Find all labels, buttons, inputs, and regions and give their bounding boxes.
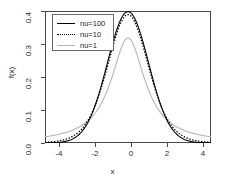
legend-item: nu=10 — [56, 29, 110, 40]
y-tick-label: 0.0 — [25, 144, 33, 155]
y-axis-title: f(x) — [7, 67, 16, 79]
y-tick-mark — [41, 77, 45, 78]
legend: nu=100 nu=10 nu=1 — [52, 14, 114, 51]
x-axis-title: x — [0, 167, 225, 176]
x-tick-mark — [167, 143, 168, 147]
legend-item: nu=1 — [56, 40, 110, 51]
y-tick-mark — [41, 44, 45, 45]
legend-line-solid-icon — [56, 19, 76, 28]
y-tick-mark — [41, 143, 45, 144]
y-tick-label: 0.1 — [25, 111, 33, 122]
y-tick-mark — [41, 11, 45, 12]
x-tick-mark — [59, 143, 60, 147]
x-tick-label: 2 — [152, 150, 182, 158]
x-tick-label: -2 — [80, 150, 110, 158]
x-tick-mark — [95, 143, 96, 147]
x-tick-mark — [131, 143, 132, 147]
x-tick-mark — [203, 143, 204, 147]
curve-nu-1 — [45, 38, 211, 137]
y-tick-label: 0.2 — [25, 78, 33, 89]
chart-root: 0.0 0.1 0.2 0.3 0.4 -4 -2 0 2 4 x f(x) n… — [0, 0, 225, 188]
y-tick-label: 0.3 — [25, 45, 33, 56]
legend-label: nu=100 — [80, 19, 105, 28]
y-tick-mark — [41, 110, 45, 111]
legend-label: nu=1 — [80, 41, 97, 50]
legend-label: nu=10 — [80, 30, 101, 39]
y-tick-label: 0.4 — [25, 12, 33, 23]
legend-item: nu=100 — [56, 18, 110, 29]
legend-line-dotted-icon — [56, 30, 76, 39]
x-tick-label: 0 — [116, 150, 146, 158]
x-tick-label: 4 — [188, 150, 218, 158]
legend-line-gray-icon — [56, 41, 76, 50]
x-tick-label: -4 — [44, 150, 74, 158]
